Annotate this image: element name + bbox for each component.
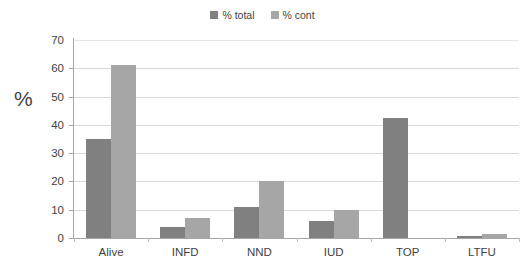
x-tick-0 <box>74 238 75 242</box>
bar-group-bars <box>371 40 445 238</box>
bar-ltfu-series1[interactable] <box>482 234 507 238</box>
bar-group-bars <box>148 40 222 238</box>
x-tick-5 <box>445 238 446 242</box>
legend-label-total: % total <box>222 9 254 21</box>
bar-group-bars <box>222 40 296 238</box>
y-tick-label-20: 20 <box>40 175 64 187</box>
bar-groups <box>74 40 519 238</box>
bar-group-iud <box>297 40 371 238</box>
bar-group-ltfu <box>445 40 519 238</box>
x-tick-2 <box>222 238 223 242</box>
bar-group-bars <box>74 40 148 238</box>
x-tick-4 <box>371 238 372 242</box>
bar-group-bars <box>297 40 371 238</box>
chart-legend: % total % cont <box>0 6 525 24</box>
y-axis-title: % <box>14 88 33 110</box>
y-tick-label-70: 70 <box>40 34 64 46</box>
bar-ltfu-series0[interactable] <box>457 236 482 238</box>
bar-iud-series0[interactable] <box>309 221 334 238</box>
bar-top-series0[interactable] <box>383 118 408 238</box>
x-tick-6 <box>519 238 520 242</box>
legend-swatch-total <box>210 11 218 19</box>
x-label-iud: IUD <box>297 245 371 259</box>
y-tick-label-40: 40 <box>40 119 64 131</box>
y-tick-label-0: 0 <box>40 232 64 244</box>
plot-area <box>74 40 519 238</box>
bar-group-top <box>371 40 445 238</box>
y-axis-labels: 706050403020100 <box>38 0 64 275</box>
legend-item-cont[interactable]: % cont <box>271 9 315 21</box>
y-tick-label-50: 50 <box>40 91 64 103</box>
bar-infd-series0[interactable] <box>160 227 185 238</box>
y-tick-label-10: 10 <box>40 204 64 216</box>
bar-infd-series1[interactable] <box>185 218 210 238</box>
x-tick-1 <box>148 238 149 242</box>
y-tick-label-60: 60 <box>40 62 64 74</box>
bar-group-bars <box>445 40 519 238</box>
bar-group-infd <box>148 40 222 238</box>
x-tick-3 <box>297 238 298 242</box>
bar-alive-series1[interactable] <box>111 65 136 238</box>
legend-label-cont: % cont <box>283 9 315 21</box>
bar-nnd-series0[interactable] <box>234 207 259 238</box>
x-label-alive: Alive <box>74 245 148 259</box>
bar-alive-series0[interactable] <box>86 139 111 238</box>
x-label-infd: INFD <box>148 245 222 259</box>
bar-group-nnd <box>222 40 296 238</box>
bar-group-alive <box>74 40 148 238</box>
bar-iud-series1[interactable] <box>334 210 359 238</box>
bar-chart: % total % cont % 706050403020100 AliveIN… <box>0 0 525 275</box>
x-axis-labels: AliveINFDNNDIUDTOPLTFU <box>74 245 519 259</box>
legend-item-total[interactable]: % total <box>210 9 254 21</box>
legend-swatch-cont <box>271 11 279 19</box>
x-label-nnd: NND <box>222 245 296 259</box>
x-label-ltfu: LTFU <box>445 245 519 259</box>
bar-nnd-series1[interactable] <box>259 181 284 238</box>
x-label-top: TOP <box>371 245 445 259</box>
y-tick-label-30: 30 <box>40 147 64 159</box>
